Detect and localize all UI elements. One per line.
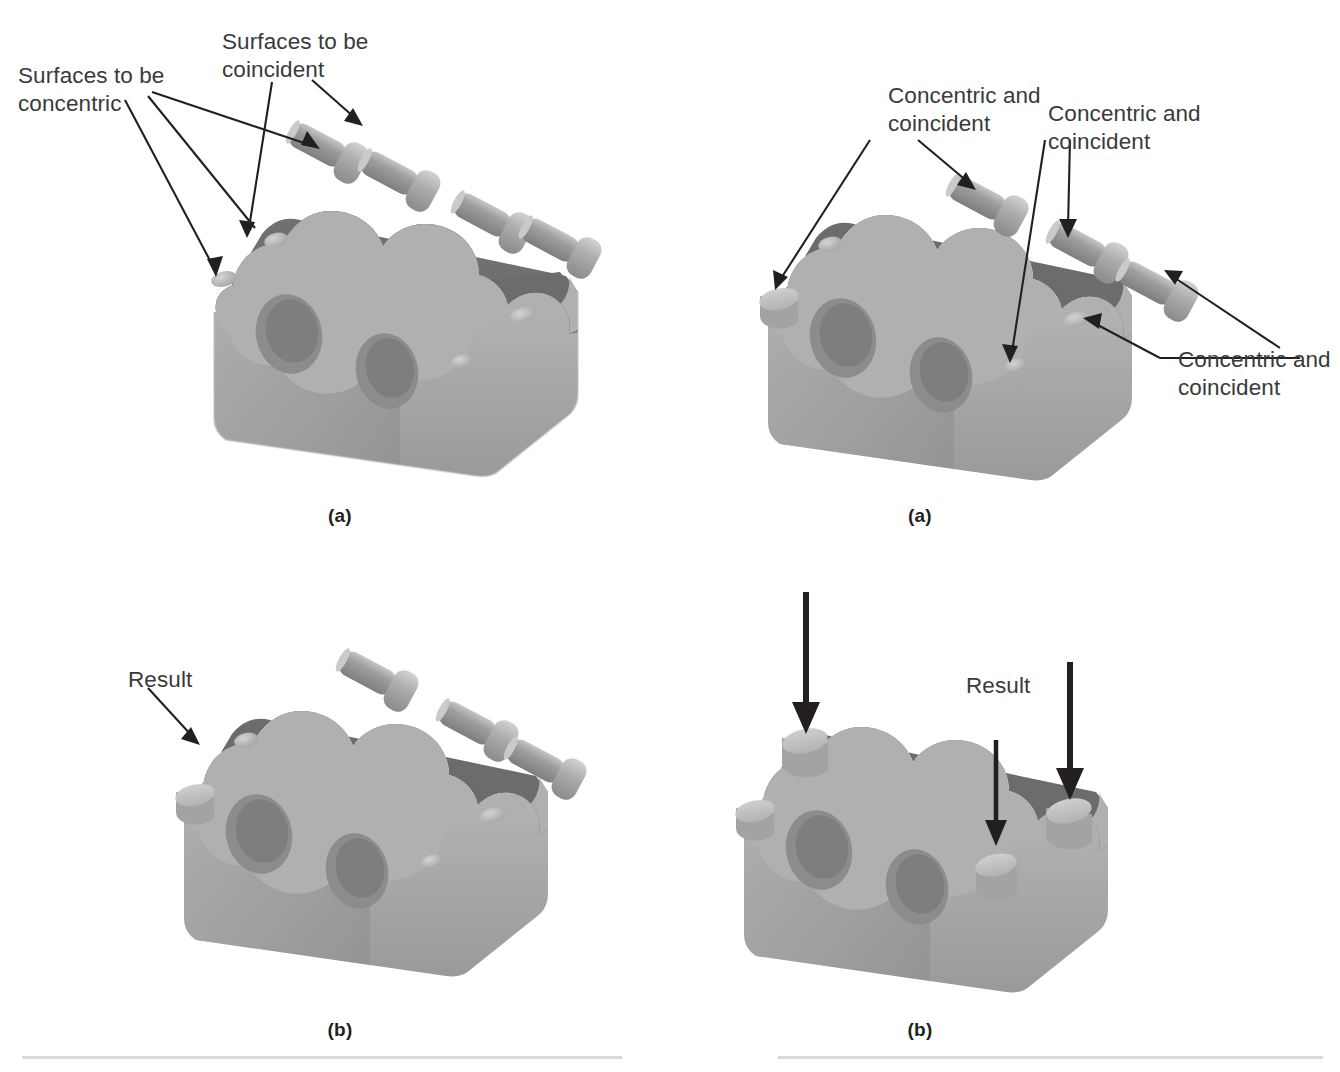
annotation-result-left: Result bbox=[128, 666, 192, 694]
panel-bottom-right-graphic bbox=[660, 540, 1340, 1072]
figure-root: Surfaces to be concentric Surfaces to be… bbox=[0, 0, 1340, 1072]
installed-stud-near-left bbox=[733, 797, 776, 841]
panel-bottom-right bbox=[660, 540, 1340, 1072]
bolt-1 bbox=[329, 640, 422, 716]
installed-stud-top-left bbox=[780, 724, 830, 777]
annotation-result-right: Result bbox=[966, 672, 1030, 700]
panel-bottom-left bbox=[0, 540, 660, 1072]
block-body bbox=[214, 209, 578, 476]
panel-bottom-left-graphic bbox=[0, 540, 660, 1072]
annotation-surfaces-to-be-coincident: Surfaces to be coincident bbox=[222, 28, 369, 84]
panel-top-right-graphic bbox=[660, 0, 1340, 540]
installed-stud-left bbox=[757, 285, 800, 329]
annotation-concentric-and-coincident-right: Concentric and coincident bbox=[1178, 346, 1331, 402]
annotation-concentric-and-coincident-center: Concentric and coincident bbox=[1048, 100, 1201, 156]
panel-top-right bbox=[660, 0, 1340, 540]
caption-bottom-left: (b) bbox=[300, 1019, 380, 1041]
caption-top-right: (a) bbox=[880, 505, 960, 527]
rule-right bbox=[778, 1056, 1323, 1059]
caption-bottom-right: (b) bbox=[880, 1019, 960, 1041]
rule-left bbox=[22, 1056, 622, 1059]
annotation-surfaces-to-be-concentric: Surfaces to be concentric bbox=[18, 62, 165, 118]
installed-stud bbox=[173, 781, 216, 825]
annotation-concentric-and-coincident-left: Concentric and coincident bbox=[888, 82, 1041, 138]
caption-top-left: (a) bbox=[300, 505, 380, 527]
leader-arrow-result bbox=[148, 688, 200, 745]
